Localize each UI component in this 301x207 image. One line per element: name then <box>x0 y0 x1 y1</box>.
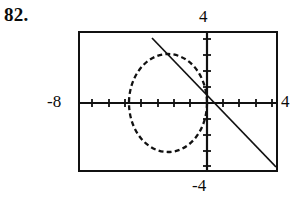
axis-label-top: 4 <box>199 8 208 25</box>
axis-label-bottom: -4 <box>192 177 206 194</box>
axis-label-left: -8 <box>47 93 61 110</box>
exercise-number: 82. <box>4 5 28 24</box>
x-axis <box>80 99 276 107</box>
screenshot-root: 82. <box>0 0 301 207</box>
axis-label-right: 4 <box>281 93 290 110</box>
plot-svg <box>80 33 276 170</box>
calculator-viewport <box>78 31 278 172</box>
plot-area <box>80 33 276 170</box>
